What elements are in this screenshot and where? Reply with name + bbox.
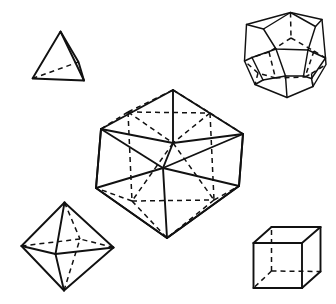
solid-cube [254, 227, 321, 288]
solid-dodecahedron [245, 13, 327, 98]
platonic-solids-figure [0, 0, 336, 304]
